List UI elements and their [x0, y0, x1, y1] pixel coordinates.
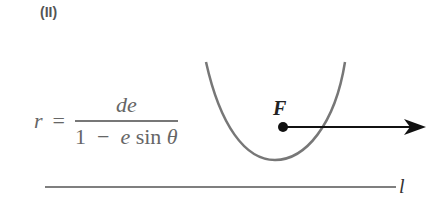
focus-point: [278, 122, 288, 132]
conic-diagram: [0, 0, 430, 199]
focus-label: F: [273, 97, 286, 120]
directrix-label: l: [399, 175, 405, 198]
